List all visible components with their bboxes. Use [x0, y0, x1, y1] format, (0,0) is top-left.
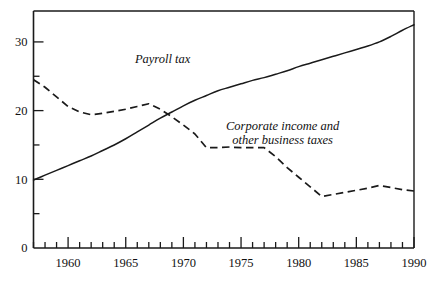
- x-tick-label: 1985: [344, 256, 369, 270]
- x-tick-label: 1975: [229, 256, 254, 270]
- x-tick-label: 1970: [171, 256, 196, 270]
- x-tick-label: 1980: [286, 256, 311, 270]
- annotation-corporate-line-2: other business taxes: [232, 133, 333, 147]
- annotation-corporate-taxes: Corporate income andother business taxes: [226, 119, 340, 147]
- annotation-corporate-line-1: Corporate income and: [226, 119, 340, 133]
- chart-background: [0, 0, 428, 285]
- x-tick-label: 1965: [113, 256, 138, 270]
- y-tick-label: 0: [21, 241, 27, 255]
- x-tick-label: 1990: [402, 256, 427, 270]
- y-tick-label: 10: [15, 173, 28, 187]
- x-tick-label: 1960: [56, 256, 81, 270]
- chart-container: 0102030 1960196519701975198019851990 Pay…: [0, 0, 428, 285]
- y-tick-label: 20: [15, 104, 28, 118]
- annotation-payroll-tax: Payroll tax: [134, 52, 191, 66]
- line-chart: 0102030 1960196519701975198019851990 Pay…: [0, 0, 428, 285]
- y-tick-label: 30: [15, 35, 28, 49]
